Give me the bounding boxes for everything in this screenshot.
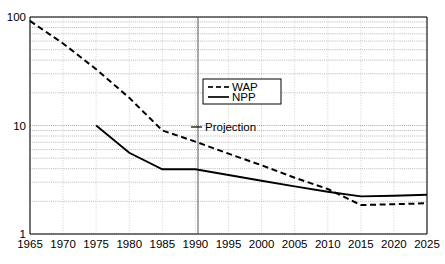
y-axis-tick-labels: 100101	[7, 11, 26, 240]
x-tick-label: 2000	[249, 238, 275, 250]
x-tick-label: 1990	[183, 238, 209, 250]
x-tick-label: 1995	[216, 238, 242, 250]
x-tick-label: 1970	[50, 238, 76, 250]
x-tick-label: 1985	[150, 238, 176, 250]
projection-label: Projection	[205, 121, 256, 133]
x-tick-label: 2005	[282, 238, 308, 250]
log-line-chart: 100101 196519701975198019851990199520002…	[0, 0, 445, 264]
y-tick-label: 100	[7, 11, 26, 23]
x-tick-label: 2010	[315, 238, 341, 250]
y-tick-label: 10	[13, 120, 26, 132]
legend-label-npp: NPP	[232, 91, 256, 103]
x-tick-label: 1965	[17, 238, 43, 250]
x-tick-label: 1980	[116, 238, 142, 250]
x-tick-label: 2020	[381, 238, 407, 250]
x-tick-label: 2015	[348, 238, 374, 250]
chart-canvas: 100101 196519701975198019851990199520002…	[0, 0, 445, 264]
x-tick-label: 2025	[414, 238, 440, 250]
legend: WAP NPP	[203, 79, 281, 104]
x-tick-label: 1975	[83, 238, 109, 250]
x-axis-tick-labels: 1965197019751980198519901995200020052010…	[17, 238, 440, 250]
